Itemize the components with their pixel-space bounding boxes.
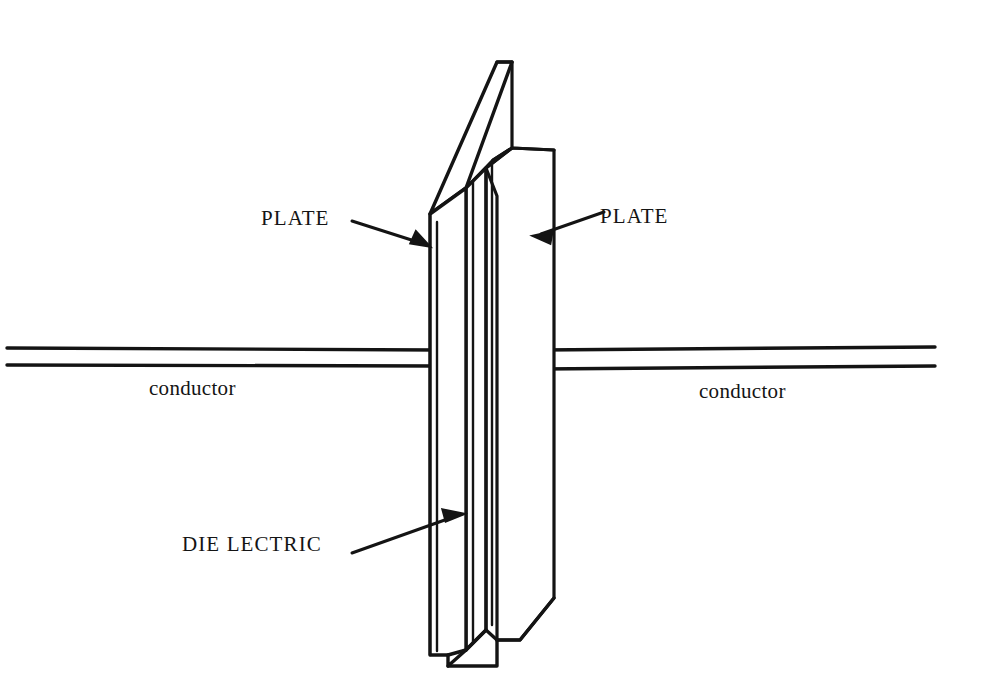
back-plate — [486, 148, 554, 640]
conductor-left-rod — [7, 348, 437, 366]
plate-left-leader-arrow — [352, 221, 429, 246]
label-conductor-right: conductor — [699, 381, 786, 402]
conductor-right-rod — [529, 347, 935, 369]
label-plate-left: PLATE — [261, 208, 330, 229]
capacitor-diagram-figure: PLATE PLATE DIE LECTRIC conductor conduc… — [0, 0, 996, 698]
capacitor-drawing — [0, 0, 996, 698]
label-plate-right: PLATE — [600, 206, 669, 227]
label-conductor-left: conductor — [149, 378, 236, 399]
label-dielectric: DIE LECTRIC — [182, 534, 322, 555]
